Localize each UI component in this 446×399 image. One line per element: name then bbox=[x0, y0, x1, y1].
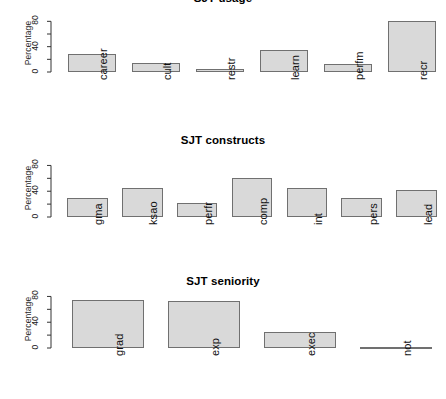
bar bbox=[360, 347, 431, 349]
x-category-label: learn bbox=[289, 55, 301, 80]
x-category-label: recr bbox=[417, 61, 429, 80]
x-category-label: restr bbox=[225, 58, 237, 81]
y-axis-label: Percentage bbox=[23, 162, 33, 214]
chart-panel-sjt-usage: SJT usage 04080Percentagecareercultrestr… bbox=[0, 0, 446, 128]
y-axis-label: Percentage bbox=[23, 17, 33, 69]
x-category-label: comp bbox=[257, 198, 269, 225]
x-category-label: grad bbox=[113, 334, 125, 356]
chart-panel-sjt-constructs: SJT constructs 04080Percentagegmaksaoper… bbox=[0, 128, 446, 270]
x-category-label: cult bbox=[161, 62, 173, 80]
x-category-label: perfm bbox=[353, 51, 365, 80]
x-category-label: gma bbox=[92, 203, 104, 225]
bar bbox=[264, 332, 335, 348]
x-category-label: exec bbox=[305, 332, 317, 356]
x-category-label: career bbox=[97, 48, 109, 80]
bar bbox=[72, 300, 143, 348]
y-axis bbox=[0, 0, 446, 76]
x-category-label: ksao bbox=[147, 201, 159, 225]
x-category-label: pers bbox=[367, 203, 379, 225]
chart-panel-sjt-seniority: SJT seniority 04080Percentagegradexpexec… bbox=[0, 270, 446, 399]
x-category-label: int bbox=[312, 213, 324, 225]
bar bbox=[168, 301, 239, 348]
x-category-label: perfr bbox=[202, 202, 214, 225]
x-category-label: not bbox=[401, 340, 413, 356]
x-category-label: exp bbox=[209, 338, 221, 356]
x-category-label: lead bbox=[422, 204, 434, 225]
y-axis-label: Percentage bbox=[23, 293, 33, 345]
